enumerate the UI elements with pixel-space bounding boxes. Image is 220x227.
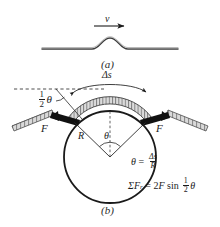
- rope-right-straight: [166, 110, 208, 131]
- force-label-left: F: [41, 123, 48, 134]
- sum-forces-function: sin: [167, 181, 179, 191]
- radius-line-right: [110, 123, 146, 158]
- physics-figure: v (a) Δs 1 2 θ R θ F F θ = Δs R Σ F r = …: [0, 0, 220, 227]
- central-angle-label: θ: [104, 131, 109, 141]
- sum-forces-force-symbol: F: [158, 181, 164, 191]
- sum-forces-half-fraction: 1 2: [183, 177, 189, 194]
- velocity-label-a: v: [105, 14, 109, 24]
- theta-equation-fraction: Δs R: [148, 153, 158, 170]
- arc-length-span-arrow: [74, 85, 146, 93]
- sum-forces-half-num: 1: [183, 177, 189, 185]
- sum-forces-relation: =: [145, 181, 151, 191]
- theta-equation-lhs: θ: [131, 157, 136, 167]
- radius-label: R: [78, 131, 84, 141]
- arc-length-label: Δs: [102, 70, 112, 80]
- sum-forces-angle-symbol: θ: [190, 181, 195, 191]
- theta-equation-numerator: Δs: [148, 153, 158, 161]
- sum-forces-subscript: r: [140, 184, 143, 191]
- sum-forces-half-den: 2: [183, 185, 189, 194]
- theta-equation: θ = Δs R: [131, 153, 159, 170]
- force-label-right: F: [156, 123, 163, 134]
- caption-b: (b): [101, 204, 114, 216]
- sum-forces-equation: Σ F r = 2 F sin 1 2 θ: [128, 177, 195, 194]
- theta-equation-denominator: R: [150, 161, 157, 170]
- half-angle-label: 1 2 θ: [37, 90, 52, 109]
- half-fraction: 1 2: [39, 90, 46, 109]
- theta-equation-relation: =: [138, 157, 144, 167]
- panel-a-graphic: [42, 26, 178, 49]
- half-angle-theta: θ: [47, 94, 52, 105]
